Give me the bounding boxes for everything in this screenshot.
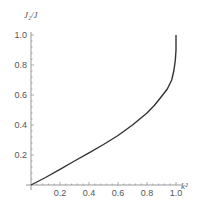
- x-tick-label: 0.6: [112, 188, 125, 198]
- x-tick-label: 0.2: [54, 188, 67, 198]
- y-tick-label: 1.0: [14, 30, 27, 40]
- series-line: [31, 35, 176, 185]
- plot-area: [31, 35, 176, 185]
- y-tick-label: 0.8: [14, 60, 27, 70]
- x-axis-label: k²: [181, 181, 188, 191]
- x-tick-label: 0.4: [83, 188, 96, 198]
- axes: 0.20.40.60.81.00.20.40.60.81.0: [14, 30, 182, 198]
- x-tick-label: 0.8: [141, 188, 154, 198]
- y-tick-label: 0.2: [14, 150, 27, 160]
- chart: 0.20.40.60.81.00.20.40.60.81.0 J₂/J k²: [0, 0, 209, 207]
- y-tick-label: 0.4: [14, 120, 27, 130]
- y-tick-label: 0.6: [14, 90, 27, 100]
- y-axis-label: J₂/J: [24, 10, 39, 20]
